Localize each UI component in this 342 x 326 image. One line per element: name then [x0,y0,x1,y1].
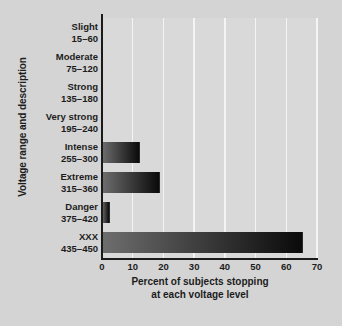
category-name: XXX [2,231,98,243]
x-tick-label: 70 [302,261,332,272]
bar [102,232,303,253]
bar [102,172,160,193]
plot-area [102,18,317,258]
category-name: Very strong [2,111,98,123]
bar-row [102,108,317,138]
x-tick-label: 10 [118,261,148,272]
category-voltage-range: 255–300 [2,153,98,165]
category-name: Extreme [2,171,98,183]
x-tick-label: 0 [87,261,117,272]
x-axis-title-line1: Percent of subjects stopping [70,276,330,289]
bar-row [102,168,317,198]
category-label: Moderate75–120 [2,51,98,74]
x-tick-label: 30 [179,261,209,272]
category-label: Intense255–300 [2,141,98,164]
category-label: Extreme315–360 [2,171,98,194]
x-tick-label: 40 [210,261,240,272]
bar-row [102,198,317,228]
y-axis-line [101,14,103,259]
category-name: Danger [2,201,98,213]
x-tick-label: 60 [271,261,301,272]
bar [102,142,140,163]
category-label: Danger375–420 [2,201,98,224]
category-voltage-range: 195–240 [2,123,98,135]
category-name: Strong [2,81,98,93]
x-tick-label: 20 [148,261,178,272]
x-tick-label: 50 [241,261,271,272]
bar-row [102,48,317,78]
category-name: Moderate [2,51,98,63]
bar-row [102,138,317,168]
category-label: Very strong195–240 [2,111,98,134]
bar-row [102,18,317,48]
x-axis-title-line2: at each voltage level [70,289,330,302]
category-label: XXX435–450 [2,231,98,254]
category-voltage-range: 435–450 [2,243,98,255]
category-voltage-range: 375–420 [2,213,98,225]
category-name: Slight [2,21,98,33]
bar-chart-figure: Voltage range and description Slight15–6… [0,0,342,326]
category-name: Intense [2,141,98,153]
category-label: Strong135–180 [2,81,98,104]
bar-row [102,78,317,108]
category-voltage-range: 135–180 [2,93,98,105]
category-voltage-range: 75–120 [2,63,98,75]
category-voltage-range: 315–360 [2,183,98,195]
x-axis-line [101,258,318,260]
category-label-column: Slight15–60Moderate75–120Strong135–180Ve… [0,18,98,258]
x-axis-title: Percent of subjects stopping at each vol… [70,276,330,301]
bar [102,202,110,223]
bar-row [102,228,317,258]
category-voltage-range: 15–60 [2,33,98,45]
category-label: Slight15–60 [2,21,98,44]
x-axis-tick-labels: 010203040506070 [102,261,317,275]
